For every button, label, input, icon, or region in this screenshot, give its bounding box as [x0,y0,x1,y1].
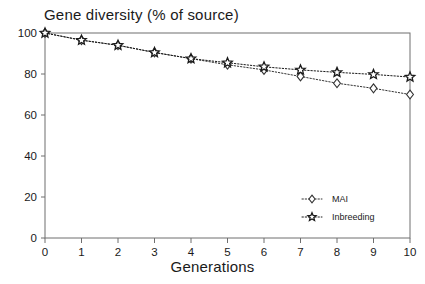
marker-diamond [370,84,377,93]
x-tick-label: 2 [115,246,121,258]
marker-diamond-shape [407,90,414,99]
marker-diamond [309,195,315,203]
marker-star-shape [296,65,306,74]
marker-star [186,54,196,63]
y-tick-label: 60 [24,109,37,121]
x-tick-label: 3 [151,246,157,258]
marker-diamond [407,90,414,99]
marker-star [308,213,316,221]
legend-label: MAI [332,194,348,204]
legend-item-mai[interactable]: MAI [302,194,348,204]
marker-star [332,67,342,76]
marker-diamond-shape [370,84,377,93]
marker-diamond [334,79,341,88]
y-tick-label: 100 [18,27,37,39]
marker-star-shape [40,28,50,37]
series-inbreeding [40,28,415,81]
marker-star-shape [113,40,123,49]
marker-star-shape [77,35,87,44]
x-tick-label: 4 [188,246,195,258]
marker-star-shape [369,69,379,78]
marker-star-shape [150,47,160,56]
marker-diamond-shape [334,79,341,88]
y-tick-label: 0 [31,232,37,244]
x-tick-label: 6 [261,246,267,258]
x-tick-label: 0 [42,246,48,258]
series-line [45,33,410,77]
gene-diversity-chart: Gene diversity (% of source) 02040608010… [0,0,425,284]
x-tick-label: 10 [404,246,417,258]
marker-star [369,69,379,78]
legend-label: Inbreeding [332,212,375,222]
x-axis-title: Generations [0,258,425,275]
marker-star-shape [308,213,316,221]
marker-star-shape [332,67,342,76]
marker-star [77,35,87,44]
y-tick-label: 40 [24,150,37,162]
x-tick-label: 8 [334,246,340,258]
legend-item-inbreeding[interactable]: Inbreeding [302,212,375,222]
marker-star-shape [186,54,196,63]
x-tick-label: 1 [78,246,84,258]
marker-diamond-shape [309,195,315,203]
marker-star [40,28,50,37]
marker-star [150,47,160,56]
marker-star [296,65,306,74]
marker-star [113,40,123,49]
x-tick-label: 9 [370,246,376,258]
x-tick-label: 7 [297,246,303,258]
marker-star [405,72,415,81]
x-tick-label: 5 [224,246,230,258]
y-tick-label: 80 [24,68,37,80]
y-tick-label: 20 [24,191,37,203]
plot-area: 020406080100012345678910MAIInbreeding [0,0,425,284]
marker-star-shape [405,72,415,81]
